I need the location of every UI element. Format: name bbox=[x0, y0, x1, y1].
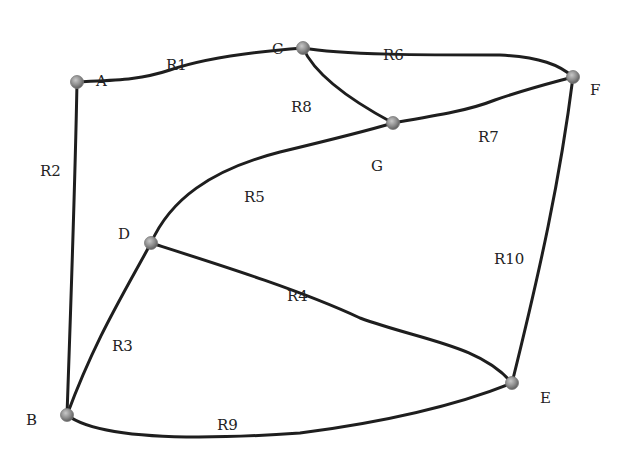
node-label-f: F bbox=[590, 81, 600, 99]
node-label-a: A bbox=[95, 72, 107, 90]
node-d bbox=[145, 237, 158, 250]
edge-r2 bbox=[67, 82, 77, 415]
edge-r3 bbox=[67, 243, 151, 415]
edge-r1 bbox=[77, 48, 303, 82]
edge-r5 bbox=[151, 123, 393, 243]
node-e bbox=[506, 377, 519, 390]
node-label-c: C bbox=[272, 40, 283, 58]
edge-r9 bbox=[67, 383, 512, 437]
edge-r6 bbox=[303, 48, 573, 77]
edge-label-r5: R5 bbox=[244, 188, 265, 206]
node-label-b: B bbox=[26, 411, 37, 429]
edges-group bbox=[67, 48, 573, 437]
node-c bbox=[297, 42, 310, 55]
node-b bbox=[61, 409, 74, 422]
edge-label-r1: R1 bbox=[166, 56, 187, 74]
node-g bbox=[387, 117, 400, 130]
edge-r4 bbox=[151, 243, 512, 383]
edge-labels-group: R1R2R3R4R5R6R7R8R9R10 bbox=[40, 46, 524, 434]
edge-r7 bbox=[393, 77, 573, 123]
edge-label-r7: R7 bbox=[478, 128, 499, 146]
edge-label-r2: R2 bbox=[40, 162, 61, 180]
edge-label-r6: R6 bbox=[383, 46, 404, 64]
edge-r8 bbox=[303, 48, 393, 123]
node-a bbox=[71, 76, 84, 89]
edge-r10 bbox=[512, 77, 573, 383]
edge-label-r4: R4 bbox=[287, 287, 308, 305]
node-f bbox=[567, 71, 580, 84]
edge-label-r9: R9 bbox=[217, 416, 238, 434]
edge-label-r10: R10 bbox=[494, 250, 524, 268]
node-label-g: G bbox=[371, 157, 383, 175]
edge-label-r3: R3 bbox=[112, 337, 133, 355]
road-network-diagram: R1R2R3R4R5R6R7R8R9R10 ABCDEFG bbox=[0, 0, 621, 458]
node-label-d: D bbox=[118, 225, 130, 243]
edge-label-r8: R8 bbox=[291, 98, 312, 116]
node-label-e: E bbox=[540, 389, 551, 407]
